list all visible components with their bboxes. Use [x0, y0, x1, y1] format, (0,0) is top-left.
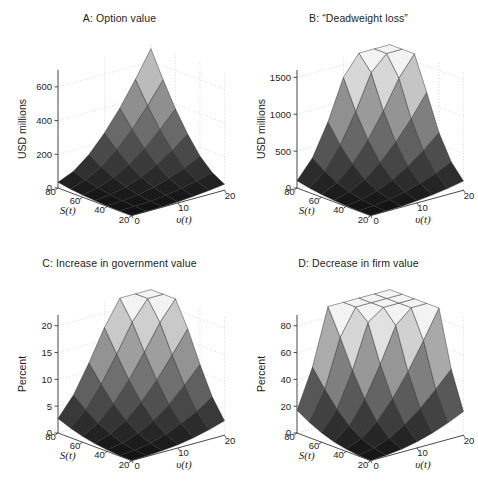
- svg-text:600: 600: [36, 81, 52, 92]
- svg-text:20: 20: [119, 459, 130, 470]
- svg-text:0: 0: [134, 215, 139, 226]
- svg-text:20: 20: [225, 435, 236, 446]
- svg-text:10: 10: [41, 374, 52, 385]
- svg-text:0: 0: [373, 215, 378, 226]
- svg-text:20: 20: [358, 214, 369, 225]
- svg-text:10: 10: [417, 447, 428, 458]
- svg-text:80: 80: [280, 320, 291, 331]
- svg-text:0: 0: [134, 460, 139, 471]
- panel-a-option-value: A: Option value 0200400600USD millions80…: [0, 0, 239, 245]
- svg-text:60: 60: [280, 347, 291, 358]
- z-axis-label-d: Percent: [255, 356, 267, 392]
- z-axis-ticks: 020406080: [280, 320, 297, 438]
- svg-text:1000: 1000: [270, 109, 291, 120]
- y-axis-label-c: υ(t): [176, 458, 192, 471]
- svg-text:200: 200: [36, 149, 52, 160]
- svg-text:10: 10: [178, 202, 189, 213]
- svg-text:20: 20: [464, 435, 475, 446]
- z-axis-label-b: USD millions: [255, 99, 267, 159]
- svg-text:20: 20: [464, 190, 475, 201]
- x-axis-label-a: S(t): [60, 204, 76, 217]
- svg-text:80: 80: [284, 431, 295, 442]
- x-axis-label-b: S(t): [299, 204, 315, 217]
- surface-plot-c: 05101520Percent80604020S(t)01020υ(t): [0, 245, 239, 490]
- z-axis-label-c: Percent: [16, 356, 28, 392]
- svg-text:80: 80: [45, 431, 56, 442]
- surface-mesh: [297, 290, 463, 461]
- svg-text:80: 80: [45, 186, 56, 197]
- z-axis-label-a: USD millions: [16, 99, 28, 159]
- svg-text:40: 40: [94, 449, 105, 460]
- svg-text:10: 10: [417, 202, 428, 213]
- panel-d-decrease-firm-value: D: Decrease in firm value 020406080Perce…: [239, 245, 478, 490]
- svg-text:400: 400: [36, 115, 52, 126]
- svg-text:40: 40: [94, 204, 105, 215]
- surface-mesh: [58, 49, 224, 216]
- x-axis-label-c: S(t): [60, 449, 76, 462]
- z-axis-ticks: 0200400600: [36, 81, 58, 193]
- surface-plot-d: 020406080Percent80604020S(t)01020υ(t): [239, 245, 478, 490]
- svg-text:40: 40: [333, 204, 344, 215]
- svg-text:20: 20: [119, 214, 130, 225]
- y-axis-label-a: υ(t): [176, 213, 192, 226]
- svg-text:20: 20: [225, 190, 236, 201]
- svg-text:5: 5: [47, 401, 52, 412]
- z-axis-ticks: 05101520: [41, 320, 58, 438]
- svg-text:80: 80: [284, 186, 295, 197]
- svg-text:20: 20: [41, 320, 52, 331]
- svg-text:15: 15: [41, 347, 52, 358]
- surface-plot-a: 0200400600USD millions80604020S(t)01020υ…: [0, 0, 239, 245]
- panel-c-increase-government-value: C: Increase in government value 05101520…: [0, 245, 239, 490]
- svg-text:10: 10: [178, 447, 189, 458]
- svg-text:1500: 1500: [270, 72, 291, 83]
- panel-b-deadweight-loss: B: “Deadweight loss” 050010001500USD mil…: [239, 0, 478, 245]
- svg-text:20: 20: [280, 401, 291, 412]
- svg-text:500: 500: [275, 146, 291, 157]
- figure-canvas: A: Option value 0200400600USD millions80…: [0, 0, 478, 491]
- svg-text:40: 40: [280, 374, 291, 385]
- surface-mesh: [297, 45, 463, 216]
- surface-plot-b: 050010001500USD millions80604020S(t)0102…: [239, 0, 478, 245]
- z-axis-ticks: 050010001500: [270, 72, 297, 194]
- y-axis-label-d: υ(t): [415, 458, 431, 471]
- surface-mesh: [58, 290, 224, 461]
- x-axis-label-d: S(t): [299, 449, 315, 462]
- y-axis-label-b: υ(t): [415, 213, 431, 226]
- svg-text:0: 0: [373, 460, 378, 471]
- svg-text:20: 20: [358, 459, 369, 470]
- svg-text:40: 40: [333, 449, 344, 460]
